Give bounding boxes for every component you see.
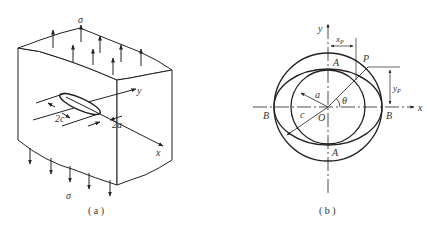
radius-a-label: a [315,89,320,100]
point-b-left-label: B [263,110,269,121]
sigma-bottom-label: σ [66,190,72,201]
point-a-bottom-label: A [331,147,339,158]
radius-c-label: c [300,109,305,120]
sigma-top-label: σ [78,14,84,25]
axis-x-label-b: x [417,102,423,113]
caption-a: ( a ) [88,205,104,217]
angle-theta-label: θ [342,95,347,106]
dim-2a-label: 2a [112,119,122,130]
axis-x-label-a: x [155,147,161,158]
caption-b: ( b ) [319,205,336,217]
axis-y-label-b: y [317,23,323,34]
point-a-top-label: A [332,57,340,68]
dim-yp-label: yP [392,83,401,94]
dim-2c-label: 2c [55,113,65,124]
point-p-label: P [362,53,369,64]
axis-y-label-a: y [136,85,142,96]
figure-canvas: σ σ 2c 2a x y ( a ) y x A A B B P O a c … [0,0,427,229]
origin-label: O [318,112,325,123]
dim-xp-label: xP [335,34,344,45]
figure-b-geometry [253,24,414,193]
point-b-right-label: B [386,110,392,121]
